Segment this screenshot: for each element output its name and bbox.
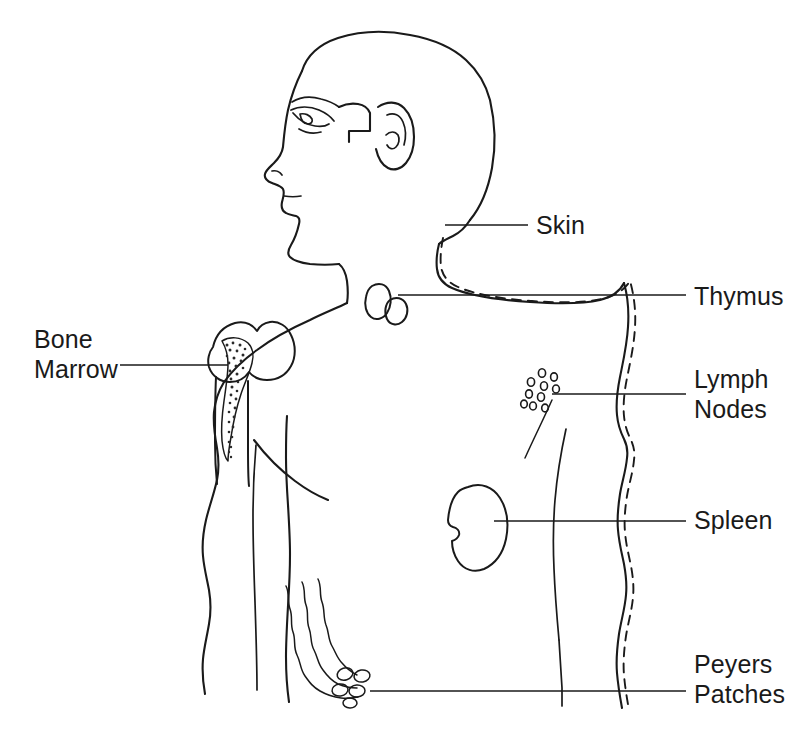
head-group: [265, 32, 495, 303]
abdomen-contour: [253, 445, 257, 690]
lymphoid-organs-illustration: Skin Thymus Lymph Nodes Spleen Peyers Pa…: [0, 0, 797, 730]
lymph-node: [551, 373, 558, 381]
eye-crease: [299, 129, 321, 133]
skin-dashed-outline-group: [441, 238, 636, 710]
eye-shape: [293, 113, 329, 126]
right-flank-inner: [553, 429, 566, 640]
left-shoulder-outline: [224, 303, 347, 382]
ear-antihelix: [386, 132, 399, 149]
left-arm-inner: [286, 416, 290, 702]
lymph-node: [530, 402, 537, 410]
spleen-outline: [448, 485, 507, 571]
lymph-node: [553, 385, 560, 393]
peyers-patch-oval: [349, 684, 366, 697]
lymph-node: [521, 400, 528, 408]
face-profile: [265, 71, 339, 265]
label-thymus: Thymus: [694, 282, 784, 310]
ear-outline: [376, 103, 414, 170]
lip-line: [284, 196, 301, 197]
jaw-neck-line: [339, 264, 348, 303]
peyers-patch-oval: [336, 666, 355, 682]
thymus-left-lobe: [365, 284, 391, 319]
intestine-middle-wall: [302, 582, 357, 688]
left-arm-outer: [203, 382, 224, 694]
thymus-group: [365, 284, 407, 324]
eye-pupil: [300, 114, 312, 124]
lymph-vessel-line: [525, 400, 552, 458]
pectoral-crease: [254, 440, 328, 500]
nostril: [272, 171, 282, 175]
anatomy-diagram: Skin Thymus Lymph Nodes Spleen Peyers Pa…: [0, 0, 797, 730]
label-bone-marrow-line-2: Marrow: [34, 355, 119, 383]
skin-dashed-line: [441, 238, 636, 710]
label-lymph-nodes-line-2: Nodes: [694, 395, 767, 423]
ear-inner-helix: [387, 114, 405, 145]
humerus-shaft-right: [248, 381, 249, 486]
label-peyers-patches-line-1: Peyers: [694, 650, 772, 678]
labels-group: Skin Thymus Lymph Nodes Spleen Peyers Pa…: [34, 211, 785, 708]
lymph-node: [526, 390, 533, 398]
label-spleen: Spleen: [694, 506, 772, 534]
humerus-head-outline: [208, 322, 295, 382]
peyers-patch-oval: [353, 669, 371, 684]
label-spleen-line-1: Spleen: [694, 506, 772, 534]
right-leg-inner: [559, 640, 562, 706]
eyebrow: [292, 97, 339, 107]
label-lymph-nodes: Lymph Nodes: [694, 365, 776, 423]
label-skin-line-1: Skin: [536, 211, 585, 239]
label-skin: Skin: [536, 211, 585, 239]
label-peyers-patches-line-2: Patches: [694, 680, 785, 708]
peyers-patch-oval: [343, 698, 357, 708]
lymph-node: [541, 382, 548, 390]
label-lymph-nodes-line-1: Lymph: [694, 365, 769, 393]
intestine-inner-wall: [318, 579, 357, 675]
label-peyers-patches: Peyers Patches: [694, 650, 785, 708]
lymph-node: [527, 378, 534, 386]
marrow-stipple: [226, 342, 247, 459]
label-thymus-line-1: Thymus: [694, 282, 784, 310]
hairline-sideburn: [339, 104, 370, 142]
humerus-shaft-left: [215, 377, 217, 484]
lymph-node: [538, 369, 545, 378]
peyers-patches-group: [286, 579, 371, 708]
lymph-nodes-group: [521, 369, 560, 458]
lymph-node: [538, 393, 545, 401]
spleen-group: [448, 485, 507, 571]
hair-outline: [302, 32, 494, 220]
bone-marrow-group: [208, 322, 295, 486]
label-bone-marrow: Bone Marrow: [34, 325, 119, 383]
leader-lines-group: [120, 225, 686, 691]
label-bone-marrow-line-1: Bone: [34, 325, 93, 353]
body-outline-group: [203, 244, 629, 708]
hair-nape: [439, 220, 470, 244]
